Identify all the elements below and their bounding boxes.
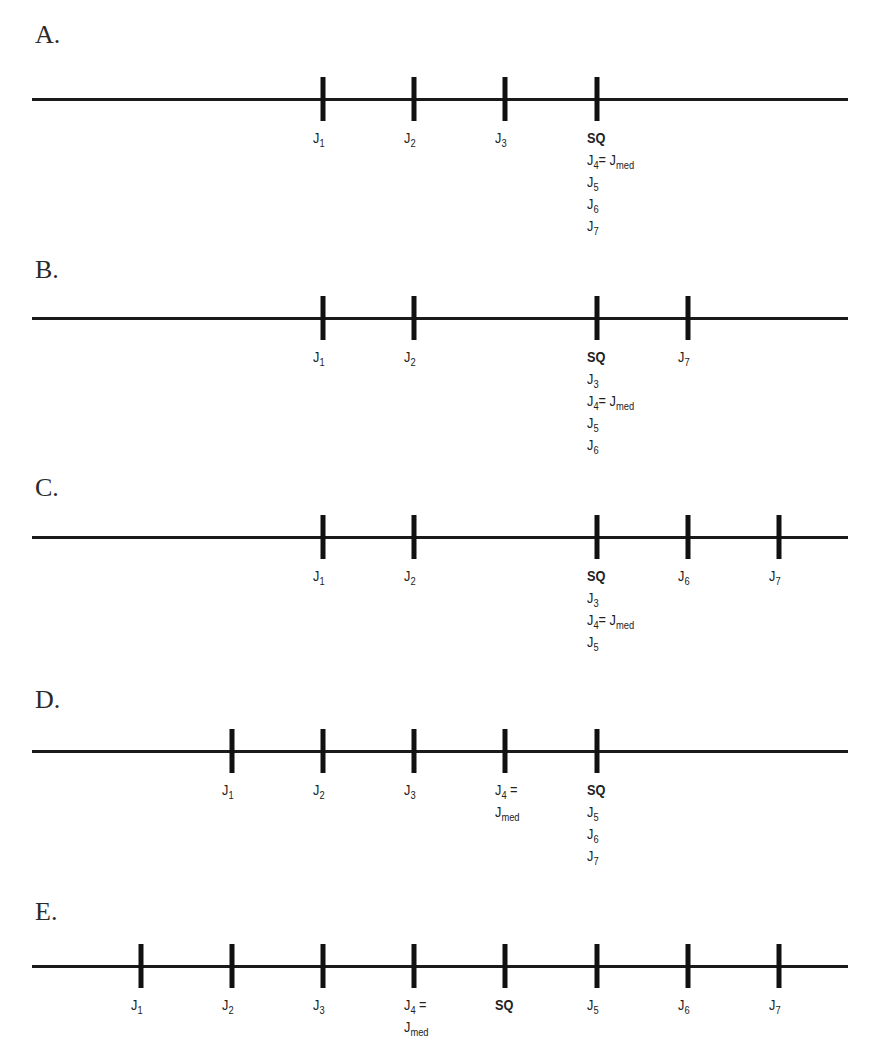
panel-label: C. [35, 473, 59, 503]
judge-label: J2 [404, 127, 416, 149]
judge-label: J1 [313, 127, 325, 149]
tick-label: J1 [313, 346, 327, 368]
judge-label: J5 [587, 171, 599, 193]
judge-label: J3 [587, 587, 599, 609]
tick-label: SQJ4= JmedJ5J6J7 [587, 127, 642, 237]
tick-mark [777, 944, 782, 988]
panel-label: E. [35, 897, 57, 927]
judge-label: J2 [222, 994, 234, 1016]
panel-label: D. [35, 685, 60, 715]
judge-label: J2 [313, 779, 325, 801]
judge-label: J6 [587, 193, 599, 215]
tick-mark [321, 296, 326, 340]
tick-label: J1 [131, 994, 145, 1016]
judge-label: J5 [587, 801, 599, 823]
tick-mark [412, 77, 417, 121]
judge-label: J7 [678, 346, 690, 368]
tick-mark [230, 729, 235, 773]
tick-label: J2 [404, 127, 418, 149]
judge-label: J4 = [495, 779, 518, 801]
number-line [32, 98, 848, 101]
judge-label: J3 [495, 127, 507, 149]
status-quo-label: SQ [587, 346, 605, 368]
number-line [32, 317, 848, 320]
judge-label: J6 [587, 823, 599, 845]
tick-mark [321, 944, 326, 988]
judge-label: J6 [678, 565, 690, 587]
tick-mark [686, 515, 691, 559]
tick-label: SQJ5J6J7 [587, 779, 609, 867]
tick-mark [503, 944, 508, 988]
judge-label: J7 [587, 215, 599, 237]
tick-mark [230, 944, 235, 988]
judge-label: J4= Jmed [587, 149, 634, 171]
tick-mark [139, 944, 144, 988]
status-quo-label: SQ [587, 779, 605, 801]
judge-label: J7 [769, 565, 781, 587]
judge-label: J6 [587, 434, 599, 456]
tick-mark [412, 296, 417, 340]
tick-label: J2 [404, 346, 418, 368]
judge-label: J1 [313, 346, 325, 368]
tick-mark [321, 729, 326, 773]
tick-label: J7 [678, 346, 692, 368]
tick-label: SQ [495, 994, 517, 1016]
tick-label: J3 [495, 127, 509, 149]
judge-label: J4 = [404, 994, 427, 1016]
judge-label: J5 [587, 994, 599, 1016]
tick-mark [412, 729, 417, 773]
tick-label: J2 [313, 779, 327, 801]
tick-mark [595, 515, 600, 559]
judge-label: J7 [769, 994, 781, 1016]
judge-label: J1 [313, 565, 325, 587]
tick-mark [503, 729, 508, 773]
number-line [32, 965, 848, 968]
tick-mark [595, 77, 600, 121]
number-line [32, 536, 848, 539]
tick-mark [686, 296, 691, 340]
judge-label: Jmed [404, 1016, 429, 1038]
panel-label: A. [35, 20, 60, 50]
tick-label: J1 [222, 779, 236, 801]
judge-label: J1 [131, 994, 143, 1016]
tick-label: J6 [678, 994, 692, 1016]
judge-label: J1 [222, 779, 234, 801]
judge-label: J5 [587, 412, 599, 434]
tick-label: SQJ3J4= JmedJ5J6 [587, 346, 642, 456]
tick-mark [321, 77, 326, 121]
tick-mark [595, 729, 600, 773]
tick-label: J6 [678, 565, 692, 587]
tick-label: J2 [404, 565, 418, 587]
judge-label: J5 [587, 631, 599, 653]
tick-label: J4 =Jmed [404, 994, 433, 1038]
tick-label: J7 [769, 565, 783, 587]
tick-mark [777, 515, 782, 559]
judge-label: J4= Jmed [587, 390, 634, 412]
status-quo-label: SQ [587, 565, 605, 587]
tick-label: SQJ3J4= JmedJ5 [587, 565, 642, 653]
panel-label: B. [35, 255, 59, 285]
judge-label: J3 [313, 994, 325, 1016]
tick-label: J1 [313, 127, 327, 149]
judge-label: Jmed [495, 801, 520, 823]
judge-label: J4= Jmed [587, 609, 634, 631]
tick-label: J3 [313, 994, 327, 1016]
number-line [32, 750, 848, 753]
judge-label: J2 [404, 565, 416, 587]
judge-label: J7 [587, 845, 599, 867]
judge-label: J6 [678, 994, 690, 1016]
tick-mark [321, 515, 326, 559]
tick-label: J4 =Jmed [495, 779, 524, 823]
tick-mark [595, 296, 600, 340]
tick-mark [595, 944, 600, 988]
tick-label: J5 [587, 994, 601, 1016]
tick-label: J2 [222, 994, 236, 1016]
tick-label: J3 [404, 779, 418, 801]
judge-label: J2 [404, 346, 416, 368]
tick-mark [412, 515, 417, 559]
status-quo-label: SQ [495, 994, 513, 1016]
tick-label: J1 [313, 565, 327, 587]
tick-mark [412, 944, 417, 988]
tick-label: J7 [769, 994, 783, 1016]
tick-mark [503, 77, 508, 121]
